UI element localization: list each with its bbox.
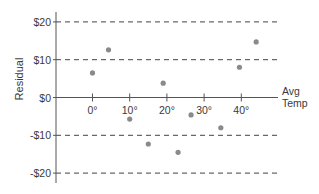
x-axis-ticks: 0°10°20°30°40° bbox=[87, 94, 249, 116]
x-tick-label: 0° bbox=[87, 104, 97, 116]
x-axis-label-line: Avg bbox=[282, 85, 300, 97]
x-axis-label-line: Temp bbox=[282, 97, 308, 109]
y-tick-label: $10 bbox=[33, 54, 51, 66]
y-axis-label: Residual bbox=[13, 58, 25, 101]
y-axis-ticks: $20$10$0-$10-$20 bbox=[30, 16, 56, 179]
data-point bbox=[254, 39, 259, 44]
residual-plot: $20$10$0-$10-$20 0°10°20°30°40° Residual… bbox=[0, 0, 319, 194]
x-tick-label: 10° bbox=[122, 104, 138, 116]
data-point bbox=[175, 150, 180, 155]
x-tick-label: 30° bbox=[196, 104, 212, 116]
data-point bbox=[161, 81, 166, 86]
x-tick-label: 40° bbox=[233, 104, 249, 116]
data-point bbox=[90, 70, 95, 75]
x-axis-label: AvgTemp bbox=[282, 85, 308, 109]
y-tick-label: -$20 bbox=[30, 167, 51, 179]
data-point bbox=[146, 141, 151, 146]
y-tick-label: $20 bbox=[33, 16, 51, 28]
y-tick-label: $0 bbox=[39, 92, 51, 104]
data-point bbox=[106, 47, 111, 52]
x-tick-label: 20° bbox=[159, 104, 175, 116]
data-point bbox=[237, 65, 242, 70]
data-point bbox=[127, 116, 132, 121]
y-tick-label: -$10 bbox=[30, 129, 51, 141]
data-point bbox=[188, 112, 193, 117]
data-point bbox=[218, 125, 223, 130]
